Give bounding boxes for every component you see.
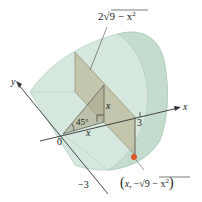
label-tick-3: 3 (137, 117, 142, 128)
wedge-volume-diagram: 2√9 − x2 y x 0 3 −3 45° x x (x,−√9 − x2) (0, 0, 202, 202)
label-y-axis: y (10, 76, 16, 87)
label-tick-neg3: −3 (78, 179, 89, 190)
label-x-axis: x (182, 101, 188, 112)
label-origin: 0 (57, 136, 62, 147)
label-height-x: x (105, 100, 111, 111)
point-marker (131, 154, 137, 160)
label-point: (x,−√9 − x2) (120, 175, 174, 191)
label-top-formula: 2√9 − x2 (98, 10, 136, 22)
label-angle: 45° (76, 117, 89, 127)
label-base-x: x (85, 127, 91, 138)
